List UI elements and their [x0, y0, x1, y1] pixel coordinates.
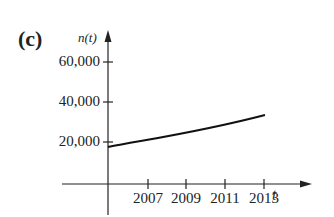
y-axis-arrow-icon	[105, 30, 112, 42]
data-curve	[108, 115, 265, 147]
x-axis-arrow-icon	[300, 181, 312, 188]
plot-area	[0, 0, 334, 217]
